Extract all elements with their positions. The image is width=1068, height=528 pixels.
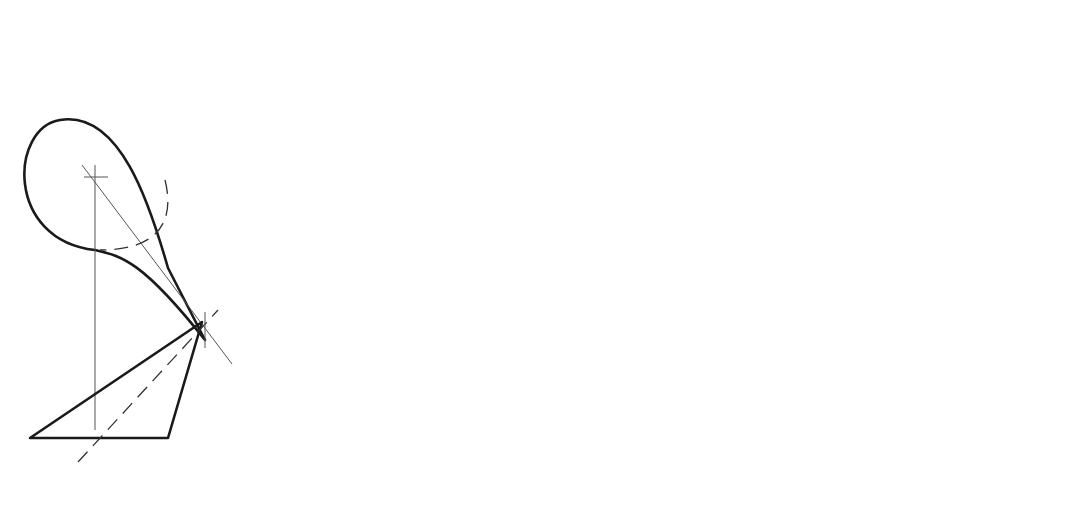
- descriptive-geometry-figure: [0, 0, 1068, 528]
- panel-a: [24, 119, 232, 462]
- cone-axis-top: [82, 165, 232, 364]
- hidden-base-arc: [100, 180, 168, 250]
- cone-top-view-outline: [24, 119, 205, 340]
